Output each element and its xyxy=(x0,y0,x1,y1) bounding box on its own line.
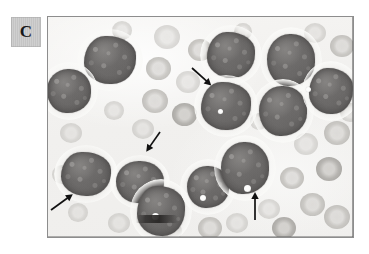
red-blood-cell xyxy=(324,205,350,229)
red-blood-cell xyxy=(104,101,124,120)
red-blood-cell xyxy=(142,89,168,113)
red-blood-cell xyxy=(300,193,325,216)
red-blood-cell xyxy=(280,167,304,189)
red-blood-cell xyxy=(108,213,130,233)
micrograph-frame xyxy=(47,16,354,238)
red-blood-cell xyxy=(154,25,180,49)
cell-nucleus xyxy=(47,69,91,113)
red-blood-cell xyxy=(316,157,342,181)
red-blood-cell xyxy=(330,35,354,57)
micrograph-canvas xyxy=(48,17,353,237)
panel-label-badge: C xyxy=(11,17,41,47)
red-blood-cell xyxy=(198,217,222,238)
scan-smudge-artifact xyxy=(136,215,178,223)
figure-panel: C xyxy=(0,0,369,254)
red-blood-cell xyxy=(68,203,88,222)
blast-left-upper xyxy=(47,62,98,120)
vacuole-e xyxy=(306,87,311,92)
cell-nucleus xyxy=(137,186,185,236)
red-blood-cell xyxy=(226,213,248,233)
red-blood-cell xyxy=(324,121,350,145)
vacuole-d xyxy=(218,109,223,114)
panel-label-text: C xyxy=(20,23,32,41)
arrow-lower-center xyxy=(248,186,262,220)
cell-nucleus xyxy=(207,32,255,78)
cell-nucleus xyxy=(309,68,353,114)
red-blood-cell xyxy=(146,57,171,80)
red-blood-cell xyxy=(272,217,296,238)
vacuole-b xyxy=(200,195,206,201)
cell-nucleus xyxy=(259,86,307,136)
red-blood-cell xyxy=(60,123,82,143)
